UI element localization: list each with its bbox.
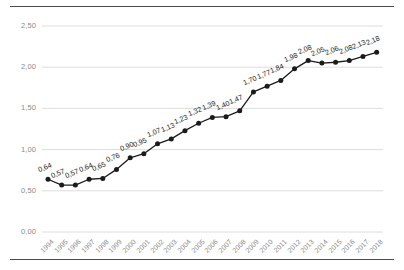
y-axis-tick-label: 2,50 xyxy=(6,21,36,30)
data-point-marker xyxy=(306,58,311,63)
y-axis-tick-label: 1,00 xyxy=(6,145,36,154)
data-point-marker xyxy=(46,177,51,182)
data-point-marker xyxy=(360,54,365,59)
data-point-marker xyxy=(182,128,187,133)
data-point-marker xyxy=(224,114,229,119)
data-point-marker xyxy=(196,121,201,126)
data-point-marker xyxy=(169,136,174,141)
data-point-marker xyxy=(265,84,270,89)
data-point-marker xyxy=(292,66,297,71)
data-point-marker xyxy=(87,177,92,182)
data-point-marker xyxy=(128,155,133,160)
data-point-marker xyxy=(333,60,338,65)
data-point-marker xyxy=(278,78,283,83)
y-axis-tick-label: 2,00 xyxy=(6,62,36,71)
data-point-marker xyxy=(237,108,242,113)
data-point-marker xyxy=(114,167,119,172)
data-point-marker xyxy=(374,50,379,55)
data-point-marker xyxy=(141,151,146,156)
data-point-marker xyxy=(347,58,352,63)
y-axis-tick-label: 0,50 xyxy=(6,186,36,195)
data-point-marker xyxy=(100,176,105,181)
data-point-marker xyxy=(155,141,160,146)
gridlines xyxy=(42,26,383,232)
plot-svg xyxy=(0,0,404,270)
data-point-marker xyxy=(251,89,256,94)
y-axis-tick-label: 0,00 xyxy=(6,227,36,236)
y-axis-tick-label: 1,50 xyxy=(6,103,36,112)
data-point-marker xyxy=(73,183,78,188)
line-chart-plot: 0,000,501,001,502,002,50 199419951996199… xyxy=(0,0,404,270)
data-point-marker xyxy=(59,183,64,188)
data-point-marker xyxy=(319,61,324,66)
data-point-marker xyxy=(210,115,215,120)
chart-figure: 0,000,501,001,502,002,50 199419951996199… xyxy=(0,0,404,270)
